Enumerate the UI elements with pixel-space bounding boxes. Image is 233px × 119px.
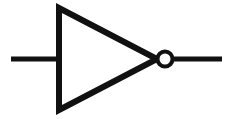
- logic-symbol-canvas: [0, 0, 233, 119]
- inversion-bubble-icon: [158, 52, 173, 67]
- not-gate-diagram: [0, 0, 233, 119]
